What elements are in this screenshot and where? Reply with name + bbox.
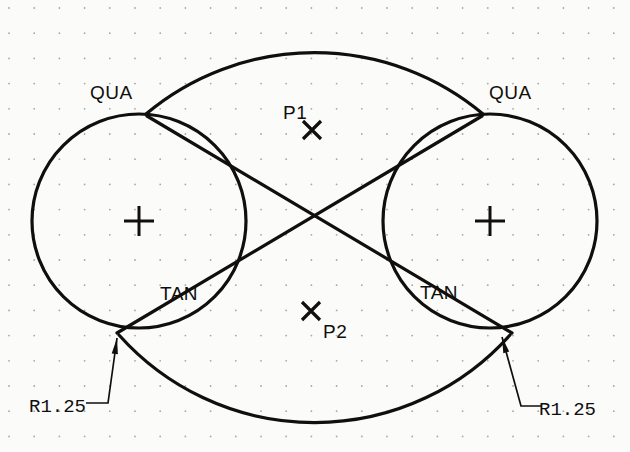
grid-dot — [563, 234, 565, 236]
grid-dot — [613, 360, 615, 362]
grid-dot — [311, 7, 313, 9]
grid-dot — [260, 259, 262, 261]
grid-dot — [613, 83, 615, 85]
grid-dot — [8, 234, 10, 236]
grid-dot — [537, 108, 539, 110]
grid-dot — [134, 284, 136, 286]
grid-dot — [33, 7, 35, 9]
grid-dot — [537, 259, 539, 261]
grid-dot — [512, 209, 514, 211]
grid-dot — [411, 284, 413, 286]
grid-dot — [462, 360, 464, 362]
grid-dot — [33, 133, 35, 135]
grid-dot — [59, 7, 61, 9]
grid-dot — [311, 209, 313, 211]
grid-dot — [563, 133, 565, 135]
grid-dot — [260, 234, 262, 236]
grid-dot — [563, 436, 565, 438]
grid-dot — [185, 234, 187, 236]
grid-dot — [159, 58, 161, 60]
grid-dot — [210, 385, 212, 387]
grid-dot — [588, 385, 590, 387]
grid-dot — [512, 133, 514, 135]
grid-dot — [109, 310, 111, 312]
grid-dot — [487, 259, 489, 261]
grid-dot — [8, 32, 10, 34]
grid-dot — [311, 284, 313, 286]
grid-dot — [588, 234, 590, 236]
grid-dot — [311, 385, 313, 387]
grid-dot — [336, 83, 338, 85]
grid-dot — [336, 58, 338, 60]
grid-dot — [210, 310, 212, 312]
grid-dot — [311, 32, 313, 34]
label-tan-right: TAN — [420, 282, 458, 303]
grid-dot — [159, 310, 161, 312]
grid-dot — [411, 335, 413, 337]
grid-dot — [84, 133, 86, 135]
right-radius-leader-line — [502, 337, 541, 406]
grid-dot — [109, 184, 111, 186]
grid-dot — [8, 259, 10, 261]
grid-dot — [210, 32, 212, 34]
grid-dot — [487, 209, 489, 211]
grid-dot — [537, 436, 539, 438]
grid-dot — [260, 108, 262, 110]
grid-dot — [260, 360, 262, 362]
center-mark-layer — [124, 206, 505, 236]
grid-dot — [260, 7, 262, 9]
grid-dot — [84, 436, 86, 438]
grid-dot — [336, 184, 338, 186]
grid-dot — [311, 410, 313, 412]
grid-dot — [159, 410, 161, 412]
grid-dot — [462, 436, 464, 438]
grid-dot — [336, 436, 338, 438]
grid-dot — [411, 410, 413, 412]
grid-dot — [134, 184, 136, 186]
grid-dot — [361, 32, 363, 34]
grid-dot — [563, 7, 565, 9]
grid-dot — [260, 284, 262, 286]
grid-dot — [336, 385, 338, 387]
grid-dot — [33, 360, 35, 362]
grid-dot — [185, 360, 187, 362]
grid-dot — [159, 209, 161, 211]
grid-dot — [588, 284, 590, 286]
grid-dot — [285, 310, 287, 312]
grid-dot — [336, 259, 338, 261]
technical-drawing: QUA QUA TAN TAN P1 P2 R1.25 R1.25 — [0, 0, 630, 452]
grid-dot — [563, 360, 565, 362]
grid-dot — [512, 360, 514, 362]
grid-dot — [235, 436, 237, 438]
grid-dot — [59, 335, 61, 337]
grid-dot — [437, 108, 439, 110]
grid-dot — [512, 436, 514, 438]
grid-dot — [59, 58, 61, 60]
grid-dot — [487, 310, 489, 312]
grid-dot — [613, 58, 615, 60]
grid-dot — [109, 284, 111, 286]
grid-dot — [185, 335, 187, 337]
grid-dot — [8, 158, 10, 160]
grid-dot — [537, 7, 539, 9]
grid-dot — [537, 158, 539, 160]
grid-dot — [411, 385, 413, 387]
grid-dot — [109, 32, 111, 34]
grid-dot — [361, 335, 363, 337]
grid-dot — [411, 133, 413, 135]
grid-dot — [512, 32, 514, 34]
grid-dot — [134, 108, 136, 110]
grid-dot — [588, 335, 590, 337]
grid-dot — [411, 209, 413, 211]
grid-dot — [386, 436, 388, 438]
grid-dot — [109, 58, 111, 60]
grid-dot — [8, 108, 10, 110]
grid-dot — [462, 158, 464, 160]
grid-dot — [361, 385, 363, 387]
grid-dot — [59, 158, 61, 160]
grid-dot — [487, 58, 489, 60]
grid-dot — [109, 234, 111, 236]
grid-dot — [336, 7, 338, 9]
grid-dot — [33, 436, 35, 438]
grid-dot — [537, 83, 539, 85]
